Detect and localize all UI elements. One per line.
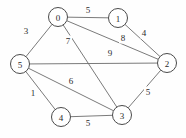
edge-weight-0-3: 7 [66,36,71,46]
node-label-0: 0 [56,13,61,23]
edge-weight-0-2: 8 [121,33,126,43]
nodes-layer: 012345 [11,8,177,127]
edge-weight-labels-layer: 5387496155 [22,5,152,129]
edge-weight-1-2: 4 [142,28,147,38]
node-label-5: 5 [18,60,23,70]
graph-node-0[interactable]: 0 [49,8,68,27]
graph-edge-5-2 [29,63,157,64]
graph-node-1[interactable]: 1 [109,9,128,28]
graph-node-3[interactable]: 3 [113,106,132,125]
weighted-graph-figure: 5387496155 012345 [0,0,186,138]
edge-weight-0-5: 3 [24,26,29,36]
edge-weight-5-2: 9 [108,48,113,58]
graph-canvas: 5387496155 012345 [0,0,186,138]
graph-edge-4-3 [70,115,112,116]
edge-weight-5-3: 6 [69,76,74,86]
graph-node-4[interactable]: 4 [52,108,71,127]
edge-weight-0-1: 5 [86,5,91,15]
graph-node-2[interactable]: 2 [158,54,177,73]
node-label-3: 3 [120,111,125,121]
node-label-2: 2 [165,59,170,69]
node-label-1: 1 [116,14,121,24]
graph-edge-5-3 [28,68,113,111]
node-label-4: 4 [59,113,64,123]
graph-edge-0-1 [67,17,108,18]
edge-weight-3-2: 5 [146,87,151,97]
edge-weight-5-4: 1 [31,88,36,98]
graph-node-5[interactable]: 5 [11,55,30,74]
edge-weight-4-3: 5 [86,118,91,128]
